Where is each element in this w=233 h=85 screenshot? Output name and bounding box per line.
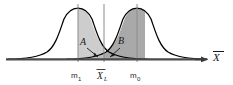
tick-label-mu1-base: m bbox=[71, 71, 78, 80]
distribution-figure: A B m 1 X L m 0 X bbox=[0, 0, 233, 85]
region-a-label: A bbox=[79, 36, 87, 47]
tick-label-threshold-subscript: L bbox=[103, 76, 108, 82]
tick-label-mu0: m 0 bbox=[130, 71, 141, 82]
tick-label-mu0-base: m bbox=[130, 71, 137, 80]
x-axis-label-text: X bbox=[212, 51, 221, 63]
tick-label-mu1: m 1 bbox=[71, 71, 82, 82]
distribution-chart-svg: A B m 1 X L m 0 X bbox=[0, 0, 233, 85]
tick-label-threshold-base: X bbox=[96, 71, 104, 81]
tick-label-mu0-subscript: 0 bbox=[137, 76, 141, 82]
tick-label-mu1-subscript: 1 bbox=[78, 76, 82, 82]
x-axis-label: X bbox=[212, 51, 224, 63]
tick-label-threshold: X L bbox=[96, 70, 108, 83]
region-b-label: B bbox=[118, 35, 124, 46]
